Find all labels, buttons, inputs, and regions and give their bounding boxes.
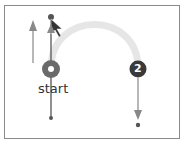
gesture-diagram <box>0 0 186 146</box>
up-arrow-icon <box>29 20 37 63</box>
start-end-dot <box>49 116 53 120</box>
drag-path-arc <box>51 25 138 69</box>
step-2-label: 2 <box>134 62 142 75</box>
start-label: start <box>38 81 68 96</box>
end-dot <box>136 123 140 127</box>
down-arrow-icon <box>134 78 142 120</box>
start-marker <box>42 60 60 78</box>
